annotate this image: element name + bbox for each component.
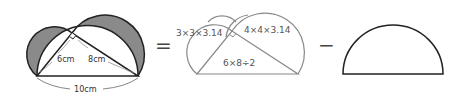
minus-sign: − [318,33,335,57]
dimension-arc-left [37,78,70,89]
equals-sign: = [155,33,172,57]
small-semicircle-inner-arc [208,16,236,22]
right-angle-mark-2 [230,34,237,38]
small-semicircle-formula: 3×3×3.14 [176,28,223,38]
hypotenuse-semicircle [343,25,443,74]
equation-diagram: 6cm 8cm 10cm = 3×3×3.14 4×4×3.14 6×8÷2 − [0,0,469,95]
leg-right-label: 8cm [88,54,106,64]
hypotenuse-label: 10cm [74,84,97,94]
figure-3-semicircle [343,25,443,74]
large-semicircle-formula: 4×4×3.14 [244,25,291,35]
dimension-arc-right [103,78,138,89]
triangle-formula: 6×8÷2 [223,58,255,68]
figure-1-shaded-lunes: 6cm 8cm 10cm [27,15,145,94]
figure-2-decomposition: 3×3×3.14 4×4×3.14 6×8÷2 [176,13,304,74]
leg-left-label: 6cm [57,54,75,64]
